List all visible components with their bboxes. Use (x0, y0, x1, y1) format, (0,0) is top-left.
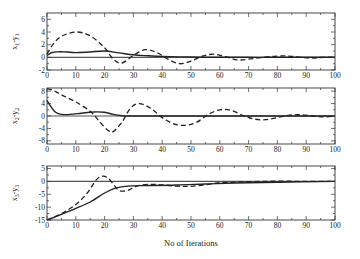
y-tick-label: -2 (39, 66, 45, 75)
x-tick-label: 0 (45, 71, 49, 80)
x-tick-label: 30 (130, 145, 138, 154)
series-solid (47, 100, 335, 116)
x-tick-label: 40 (158, 71, 166, 80)
y-tick-label: 2 (41, 40, 45, 49)
panel-2: 0102030405060708090100-8-4048x2-y2 (10, 87, 341, 154)
x-tick-label: 20 (101, 145, 109, 154)
y-tick-label: 0 (41, 177, 45, 186)
x-tick-label: 50 (187, 145, 195, 154)
y-axis-label: x1-y1 (10, 33, 20, 50)
x-tick-label: 70 (245, 145, 253, 154)
series-dashed (47, 32, 335, 64)
x-tick-label: 20 (101, 71, 109, 80)
x-tick-label: 90 (302, 145, 310, 154)
y-axis-label: x3-y3 (10, 185, 20, 202)
x-tick-label: 60 (216, 71, 224, 80)
x-tick-label: 30 (130, 221, 138, 230)
x-tick-label: 20 (101, 221, 109, 230)
series-dashed (47, 176, 335, 220)
x-tick-label: 0 (45, 221, 49, 230)
x-tick-label: 10 (72, 221, 80, 230)
y-tick-label: -10 (35, 203, 45, 212)
x-tick-label: 80 (274, 71, 282, 80)
x-tick-label: 70 (245, 71, 253, 80)
series-solid (47, 181, 335, 220)
x-tick-label: 40 (158, 145, 166, 154)
x-tick-label: 60 (216, 221, 224, 230)
x-tick-label: 90 (302, 71, 310, 80)
plot-frame (47, 166, 335, 220)
panel-3: 0102030405060708090100-15-10-505x3-y3 (10, 164, 341, 230)
x-axis-title: No of Iterations (164, 238, 218, 248)
y-tick-label: -4 (39, 124, 45, 133)
x-tick-label: 100 (329, 145, 341, 154)
x-tick-label: 90 (302, 221, 310, 230)
figure: 0102030405060708090100-20246x1-y10102030… (0, 0, 360, 259)
x-tick-label: 50 (187, 71, 195, 80)
y-tick-label: -5 (39, 190, 45, 199)
panel-1: 0102030405060708090100-20246x1-y1 (10, 13, 341, 80)
x-tick-label: 40 (158, 221, 166, 230)
y-tick-label: 5 (41, 164, 45, 173)
y-tick-label: -15 (35, 216, 45, 225)
y-tick-label: 4 (41, 99, 45, 108)
x-tick-label: 60 (216, 145, 224, 154)
x-tick-label: 30 (130, 71, 138, 80)
y-tick-label: -8 (39, 136, 45, 145)
y-tick-label: 8 (41, 87, 45, 96)
x-tick-label: 0 (45, 145, 49, 154)
y-tick-label: 4 (41, 28, 45, 37)
y-tick-label: 6 (41, 15, 45, 24)
x-tick-label: 50 (187, 221, 195, 230)
x-tick-label: 80 (274, 221, 282, 230)
x-tick-label: 100 (329, 221, 341, 230)
series-dashed (47, 89, 335, 133)
y-tick-label: 0 (41, 53, 45, 62)
x-tick-label: 100 (329, 71, 341, 80)
x-tick-label: 10 (72, 71, 80, 80)
x-tick-label: 80 (274, 145, 282, 154)
y-tick-label: 0 (41, 112, 45, 121)
x-tick-label: 10 (72, 145, 80, 154)
x-tick-label: 70 (245, 221, 253, 230)
y-axis-label: x2-y2 (10, 108, 20, 125)
